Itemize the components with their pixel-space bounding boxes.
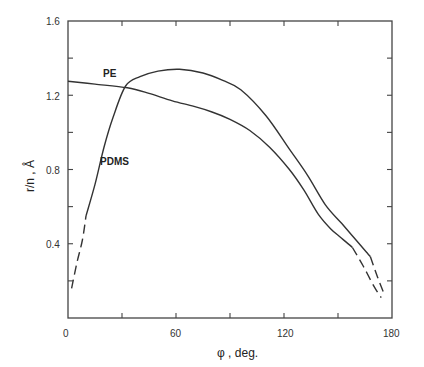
y-tick-label-1.6: 1.6	[46, 16, 60, 27]
plot-frame	[68, 21, 392, 318]
y-axis-title: r/n , Å	[22, 160, 37, 192]
x-tick-label-180: 180	[383, 328, 400, 339]
y-tick-label-0.8: 0.8	[46, 165, 60, 176]
x-tick-label-120: 120	[277, 328, 294, 339]
pdms-curve-dashed-end	[370, 257, 384, 296]
chart-canvas: 0 60 120 180 0.4 0.8 1.2 1.6 φ , deg. r/…	[0, 0, 424, 367]
y-tick-label-0.4: 0.4	[46, 239, 60, 250]
axis-ticks	[68, 21, 392, 318]
x-tick-label-0: 0	[63, 328, 69, 339]
x-axis-title: φ , deg.	[217, 346, 258, 360]
pdms-curve-dashed	[72, 216, 86, 288]
pe-curve-label: PE	[103, 68, 117, 79]
data-curves	[68, 69, 385, 297]
x-tick-label-60: 60	[170, 328, 182, 339]
y-tick-label-1.2: 1.2	[46, 91, 60, 102]
pe-curve-dashed	[352, 248, 381, 298]
pdms-curve-label: PDMS	[100, 156, 129, 167]
